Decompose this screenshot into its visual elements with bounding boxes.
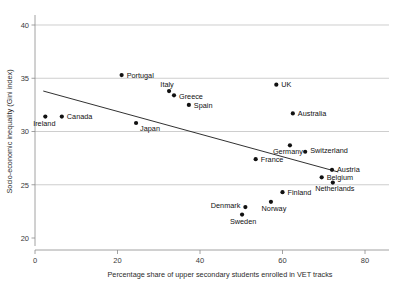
xtick-label-60: 60 (278, 256, 286, 265)
data-point (60, 114, 64, 118)
data-point-label: Italy (160, 80, 174, 89)
data-point (303, 150, 307, 154)
x-axis-title: Percentage share of upper secondary stud… (108, 270, 333, 279)
plot-area: 2025303540020406080IrelandCanadaPortugal… (0, 0, 393, 292)
data-point-label: Switzerland (310, 146, 348, 155)
data-point-label: Japan (140, 124, 160, 133)
scatter-chart: 2025303540020406080IrelandCanadaPortugal… (0, 0, 393, 292)
data-point-label: Finland (288, 188, 312, 197)
data-point-label: UK (281, 80, 291, 89)
data-point (134, 121, 138, 125)
xtick-label-20: 20 (113, 256, 121, 265)
data-point-label: Belgium (327, 173, 353, 182)
data-point-label: Greece (179, 92, 203, 101)
data-point-label: Ireland (33, 119, 55, 128)
data-point (330, 168, 334, 172)
data-point-label: Spain (194, 101, 213, 110)
ytick-label-30: 30 (21, 127, 29, 136)
data-point-label: Portugal (127, 71, 155, 80)
data-point (172, 93, 176, 97)
data-point (243, 205, 247, 209)
data-point (254, 157, 258, 161)
data-point (280, 190, 284, 194)
data-point-label: Denmark (211, 201, 241, 210)
data-point (320, 175, 324, 179)
ytick-label-25: 25 (21, 181, 29, 190)
xtick-label-40: 40 (196, 256, 204, 265)
data-point (274, 83, 278, 87)
ytick-label-35: 35 (21, 74, 29, 83)
data-point (187, 103, 191, 107)
data-point-label: France (261, 155, 284, 164)
ytick-label-40: 40 (21, 21, 29, 30)
xtick-label-0: 0 (33, 256, 37, 265)
data-point-label: Canada (67, 112, 94, 121)
data-point-label: Australia (298, 109, 327, 118)
data-point-label: Sweden (230, 217, 256, 226)
ytick-label-20: 20 (21, 234, 29, 243)
data-point-label: Netherlands (315, 184, 355, 193)
data-point-label: Norway (262, 204, 287, 213)
data-point (167, 89, 171, 93)
data-point (291, 111, 295, 115)
y-axis-title: Socio-economic inequality (Gini index) (5, 69, 14, 193)
data-point (120, 73, 124, 77)
xtick-label-80: 80 (361, 256, 369, 265)
